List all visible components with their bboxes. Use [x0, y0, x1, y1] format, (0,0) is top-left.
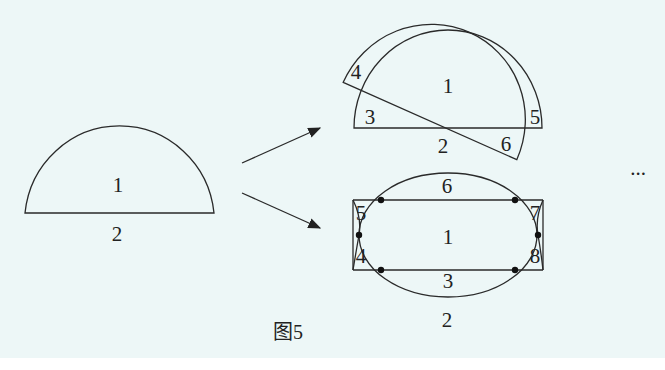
intersection-dot: [535, 232, 541, 238]
intersection-dot: [378, 267, 384, 273]
br-label-1: 1: [443, 225, 454, 249]
tr-label-1: 1: [443, 74, 454, 98]
intersection-dot: [512, 197, 518, 203]
br-label-4: 4: [356, 244, 367, 268]
tr-label-6: 6: [501, 132, 512, 156]
br-label-8: 8: [530, 244, 541, 268]
arrow-down-icon: [242, 193, 320, 228]
br-label-5: 5: [356, 201, 367, 225]
tr-label-3: 3: [365, 105, 376, 129]
intersection-dot: [356, 232, 362, 238]
figure-stage: 1 2 4 1 3 5 2 6: [0, 0, 665, 370]
br-label-3: 3: [443, 269, 454, 293]
left-label-inside: 1: [113, 173, 124, 197]
br-label-6: 6: [442, 174, 453, 198]
left-semicircle: [25, 126, 214, 213]
tr-label-5: 5: [530, 105, 541, 129]
diagram-canvas: 1 2 4 1 3 5 2 6: [0, 0, 665, 370]
continuation-ellipsis: ...: [630, 156, 646, 180]
arrow-up-icon: [242, 128, 320, 163]
figure-caption: 图5: [273, 321, 303, 343]
br-label-2: 2: [442, 308, 453, 332]
intersection-dot: [378, 197, 384, 203]
tr-label-4: 4: [351, 60, 362, 84]
intersection-dot: [512, 267, 518, 273]
tr-label-2: 2: [438, 134, 449, 158]
br-label-7: 7: [530, 201, 541, 225]
left-label-outside: 2: [112, 222, 123, 246]
